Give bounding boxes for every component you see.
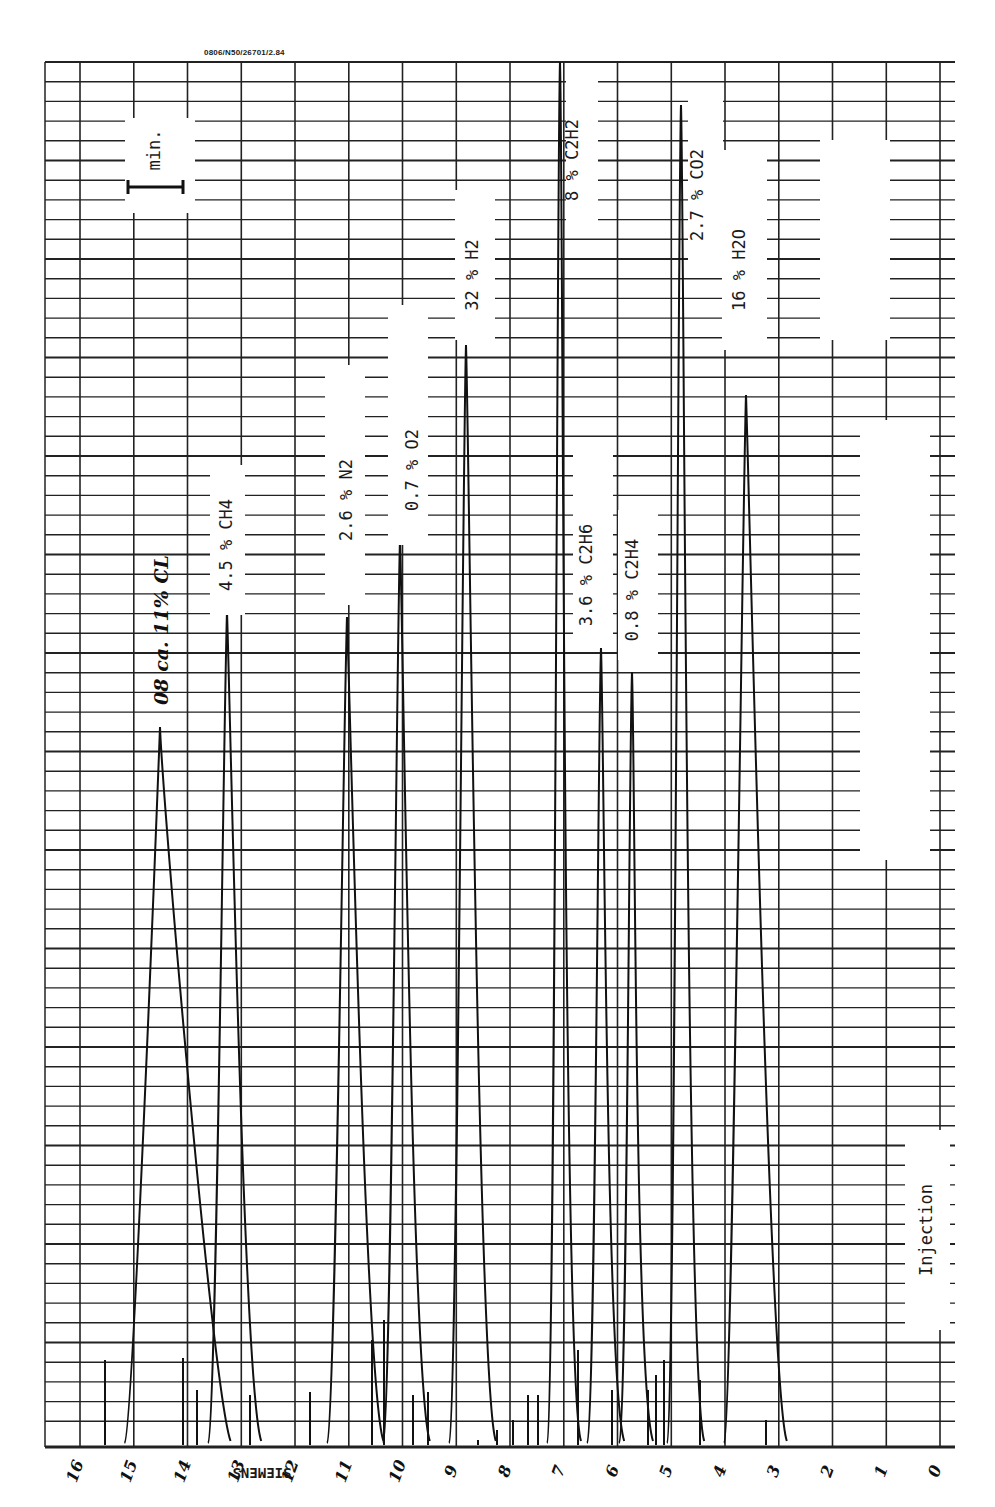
peak-label: 3.6 % C2H6 <box>576 524 596 626</box>
x-tick-label: 7 <box>548 1463 570 1480</box>
injection-marker-label: Injection <box>916 1184 936 1276</box>
peak-label: 0.7 % O2 <box>402 429 422 511</box>
x-tick-label: 4 <box>709 1463 731 1480</box>
x-tick-label: 11 <box>331 1457 356 1484</box>
x-tick-label: 6 <box>601 1463 623 1480</box>
peak-label: 0.8 % C2H4 <box>622 539 642 641</box>
x-tick-label: 8 <box>494 1463 516 1481</box>
scale-marker-label: min. <box>144 130 164 171</box>
peak-labels: 4.5 % CH42.6 % N20.7 % O232 % H28 % C2H2… <box>128 119 936 1276</box>
time-axis: 161514131211109876543210SIEMENS <box>62 1457 946 1484</box>
x-tick-label: 14 <box>170 1457 195 1484</box>
x-tick-label: 16 <box>62 1457 87 1484</box>
chromatogram-trace <box>105 62 787 1445</box>
handwritten-annotation: 08 ca. 11% CL <box>150 555 172 705</box>
x-tick-label: 1 <box>870 1463 892 1480</box>
peak-label: 4.5 % CH4 <box>216 499 236 591</box>
x-tick-label: 10 <box>385 1457 410 1484</box>
chart-grid <box>45 62 955 1447</box>
x-tick-label: 3 <box>763 1463 785 1480</box>
peak-label: 8 % C2H2 <box>562 119 582 201</box>
peak-label: 2.7 % CO2 <box>687 149 707 241</box>
x-tick-label: 0 <box>924 1463 946 1480</box>
peak-label: 2.6 % N2 <box>336 459 356 541</box>
chromatogram-chart: 4.5 % CH42.6 % N20.7 % O232 % H28 % C2H2… <box>0 0 995 1507</box>
x-tick-label: 9 <box>440 1463 462 1480</box>
x-tick-label: 5 <box>655 1463 677 1480</box>
x-tick-label: 15 <box>116 1457 141 1484</box>
peak-label: 32 % H2 <box>462 239 482 311</box>
peak-label: 16 % H2O <box>729 229 749 311</box>
x-tick-label: 2 <box>816 1463 838 1481</box>
paper-brand: SIEMENS <box>232 1465 291 1481</box>
